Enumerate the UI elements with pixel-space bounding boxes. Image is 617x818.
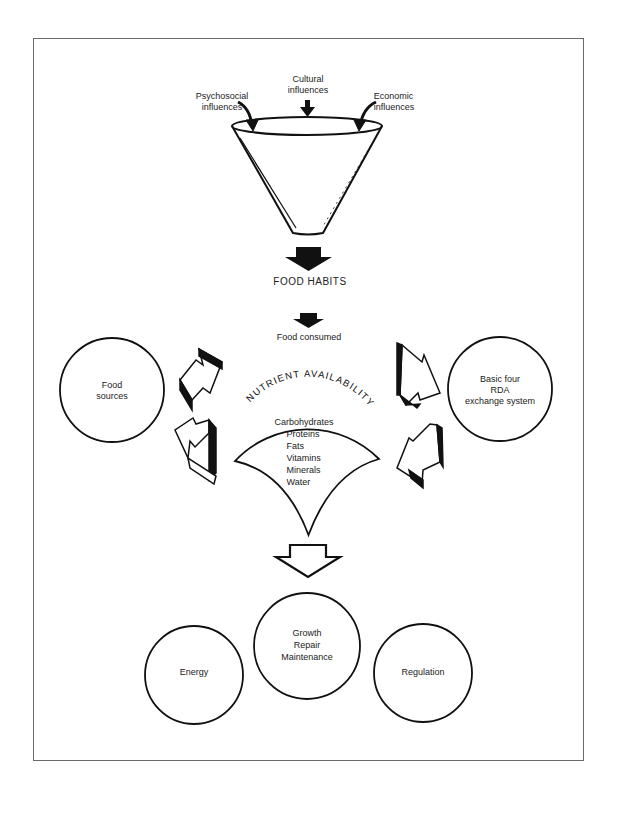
nutrient-item: Fats <box>286 440 333 452</box>
nutrient-item: Proteins <box>286 428 333 440</box>
nutrient-item: Vitamins <box>286 452 333 464</box>
nutrient-item: Water <box>286 476 333 488</box>
food-consumed-arrow-icon <box>293 313 324 328</box>
diagram-canvas: NUTRIENT AVAILABILITY <box>0 0 617 818</box>
funnel-icon <box>232 117 382 235</box>
growth-label: Growth Repair Maintenance <box>281 627 333 663</box>
energy-label: Energy <box>180 667 209 678</box>
influence-arrows <box>238 100 376 131</box>
regulation-label: Regulation <box>401 667 444 678</box>
food-consumed-label: Food consumed <box>277 332 342 343</box>
nutrient-item: Carbohydrates <box>274 416 333 428</box>
food-habits-arrow-icon <box>285 247 332 271</box>
left-exchange-arrows-icon <box>175 349 222 484</box>
cultural-influences-label: Cultural influences <box>288 74 329 96</box>
nutrient-item: Minerals <box>286 464 333 476</box>
food-sources-label: Food sources <box>96 380 128 402</box>
psychosocial-influences-label: Psychosocial influences <box>196 91 249 113</box>
basic-four-label: Basic four RDA exchange system <box>465 374 535 407</box>
economic-influences-label: Economic influences <box>374 91 415 113</box>
food-habits-label: FOOD HABITS <box>273 276 346 287</box>
outcomes-arrow-icon <box>276 545 340 577</box>
nutrient-list: Carbohydrates Proteins Fats Vitamins Min… <box>286 416 333 488</box>
right-exchange-arrows-icon <box>397 343 443 488</box>
nutrient-availability-title: NUTRIENT AVAILABILITY <box>244 368 377 409</box>
